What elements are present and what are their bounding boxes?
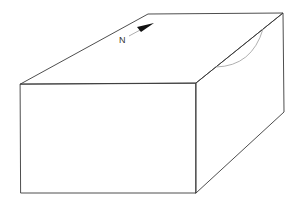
- right-face: [196, 13, 284, 193]
- block-diagram: [0, 0, 298, 204]
- north-label: N: [119, 36, 126, 45]
- front-face: [21, 83, 197, 193]
- north-arrow-icon: [129, 23, 154, 36]
